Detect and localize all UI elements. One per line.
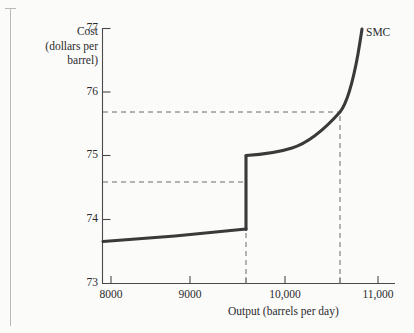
x-axis-label: Output (barrels per day) (228, 305, 339, 317)
y-tick-label-75: 75 (72, 148, 98, 160)
smc-curve-pre-jump (103, 229, 246, 242)
y-axis-label-line-2: (dollars per (24, 39, 98, 54)
y-tick-label-74: 74 (72, 212, 98, 224)
y-tick-label-77: 77 (72, 21, 98, 33)
smc-series-label: SMC (366, 26, 390, 38)
y-tick-label-73: 73 (72, 276, 98, 288)
smc-cost-chart: Cost (dollars per barrel) 77 76 75 74 73… (0, 0, 414, 333)
x-tick-label-9000: 9000 (155, 288, 225, 300)
y-tick-label-76: 76 (72, 85, 98, 97)
x-tick-label-8000: 8000 (76, 288, 146, 300)
y-axis-label-line-3: barrel) (24, 53, 98, 68)
smc-curve-post-jump (246, 29, 362, 156)
x-tick-label-10000: 10,000 (250, 288, 320, 300)
x-tick-label-11000: 11,000 (343, 288, 413, 300)
